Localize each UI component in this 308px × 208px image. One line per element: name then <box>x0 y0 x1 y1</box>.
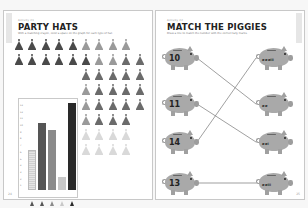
party-hat-icon <box>109 39 117 50</box>
y-tick-label: 2 <box>20 178 21 181</box>
party-hat-icon <box>95 99 103 110</box>
match-line[interactable] <box>197 58 256 142</box>
bar <box>68 103 76 190</box>
piggy-tally[interactable]: 𝍸 𝍸 <box>256 91 294 117</box>
piggy-number-label: 10 <box>169 54 180 63</box>
party-hat-icon <box>82 39 90 50</box>
party-hat-icon <box>122 99 130 110</box>
party-hat-icon <box>28 39 36 50</box>
page-title: PARTY HATS <box>18 22 78 32</box>
party-hat-icon <box>122 39 130 50</box>
party-hat-icon <box>122 129 130 140</box>
piggy-number-label: 14 <box>169 138 180 147</box>
party-hat-icon <box>28 54 36 65</box>
tally-marks: 𝍸 𝍸 𝍸 III <box>262 57 274 63</box>
party-hat-icon <box>55 39 63 50</box>
party-hat-icon <box>69 39 77 50</box>
party-hat-icon <box>109 114 117 125</box>
book-spread: Activity 21 PARTY HATS With a matching c… <box>0 0 308 208</box>
page-number: 24 <box>8 192 12 196</box>
piggy-number[interactable]: 13 <box>162 170 200 196</box>
piggy-tally[interactable]: 𝍸 𝍸 III <box>256 170 294 196</box>
y-tick-label: 10 <box>20 124 23 127</box>
party-hat-icon <box>82 129 90 140</box>
tally-marks: 𝍸 𝍸 I <box>262 141 269 147</box>
party-hat-icon <box>69 54 77 65</box>
right-page: Activity 22 MATCH THE PIGGIES Draw a lin… <box>155 10 305 200</box>
party-hat-icon <box>82 54 90 65</box>
party-hat-icon <box>109 99 117 110</box>
party-hat-icon <box>40 201 44 206</box>
y-tick-label: 6 <box>20 151 21 154</box>
party-hat-icon <box>15 54 23 65</box>
piggy-number-label: 13 <box>169 179 180 188</box>
party-hat-icon <box>122 54 130 65</box>
y-tick-label: 7 <box>20 144 21 147</box>
party-hat-icon <box>109 54 117 65</box>
y-tick-label: 12 <box>20 111 23 114</box>
piggy-number-label: 11 <box>169 100 180 109</box>
y-tick-label: 11 <box>20 117 23 120</box>
match-line[interactable] <box>197 104 256 142</box>
page-number: 25 <box>296 192 300 196</box>
y-tick-label: 8 <box>20 137 21 140</box>
party-hat-icon <box>136 54 144 65</box>
party-hat-icon <box>15 39 23 50</box>
party-hat-icon <box>109 69 117 80</box>
bar <box>58 177 66 190</box>
y-tick-label: 1 <box>20 184 21 187</box>
party-hat-icon <box>122 114 130 125</box>
tally-marks: 𝍸 𝍸 <box>262 103 267 109</box>
party-hat-icon <box>60 201 64 206</box>
party-hat-icon <box>95 69 103 80</box>
y-tick-label: 5 <box>20 158 21 161</box>
party-hat-icon <box>70 201 74 206</box>
y-tick-label: 4 <box>20 164 21 167</box>
bar <box>38 123 46 190</box>
party-hat-icon <box>95 114 103 125</box>
party-hat-icon <box>122 84 130 95</box>
party-hat-icon <box>95 144 103 155</box>
party-hat-icon <box>95 84 103 95</box>
party-hat-icon <box>82 84 90 95</box>
page-side-tab <box>6 13 12 43</box>
party-hat-icon <box>82 69 90 80</box>
party-hat-icon <box>136 69 144 80</box>
party-hat-icon <box>50 201 54 206</box>
y-tick-label: 3 <box>20 171 21 174</box>
piggy-number[interactable]: 14 <box>162 129 200 155</box>
y-tick-label: 13 <box>20 104 23 107</box>
left-page: Activity 21 PARTY HATS With a matching c… <box>3 10 153 200</box>
party-hat-icon <box>122 69 130 80</box>
party-hat-icon <box>136 99 144 110</box>
party-hat-icon <box>55 54 63 65</box>
party-hat-icon <box>42 39 50 50</box>
bar <box>48 130 56 190</box>
tally-marks: 𝍸 𝍸 III <box>262 182 271 188</box>
party-hat-icon <box>82 99 90 110</box>
party-hat-icon <box>109 129 117 140</box>
piggy-number[interactable]: 10 <box>162 45 200 71</box>
piggy-tally[interactable]: 𝍸 𝍸 I <box>256 129 294 155</box>
match-line[interactable] <box>197 58 256 104</box>
party-hat-icon <box>109 144 117 155</box>
piggy-tally[interactable]: 𝍸 𝍸 𝍸 III <box>256 45 294 71</box>
party-hat-icon <box>136 84 144 95</box>
party-hat-icon <box>95 54 103 65</box>
party-hat-icon <box>42 54 50 65</box>
party-hat-icon <box>122 144 130 155</box>
piggy-number[interactable]: 11 <box>162 91 200 117</box>
party-hat-icon <box>95 129 103 140</box>
bar-graph[interactable]: 12345678910111213 <box>18 98 78 206</box>
party-hat-icon <box>82 144 90 155</box>
bar <box>28 150 36 190</box>
party-hat-icon <box>95 39 103 50</box>
y-tick-label: 9 <box>20 131 21 134</box>
instructions: With a matching crayon, color a space on… <box>18 32 113 35</box>
party-hat-icon <box>82 114 90 125</box>
party-hat-icon <box>30 201 34 206</box>
party-hat-icon <box>109 84 117 95</box>
